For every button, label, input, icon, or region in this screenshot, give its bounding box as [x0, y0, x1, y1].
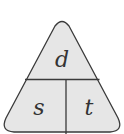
formula-triangle: d s t — [0, 0, 124, 134]
bottom-left-label-s: s — [33, 95, 44, 120]
top-label-d: d — [55, 47, 69, 72]
triangle-outline — [4, 22, 120, 133]
bottom-right-label-t: t — [85, 95, 94, 120]
